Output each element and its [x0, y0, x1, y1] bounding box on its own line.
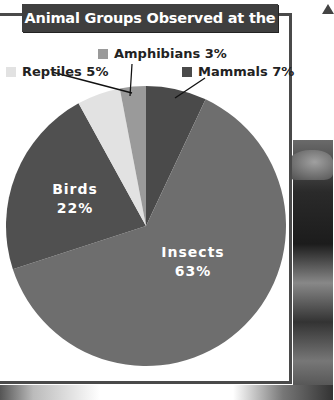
label-reptiles: Reptiles 5% [22, 64, 108, 79]
label-amphibians: Amphibians 3% [114, 46, 227, 61]
insects-pct: 63% [155, 262, 231, 281]
legend-amphibians: Amphibians 3% [98, 46, 227, 61]
swatch-mammals [182, 67, 192, 77]
swatch-reptiles [6, 67, 16, 77]
insects-name: Insects [155, 243, 231, 262]
slice-label-insects: Insects 63% [155, 243, 231, 281]
swatch-amphibians [98, 49, 108, 59]
slice-label-birds: Birds 22% [40, 180, 110, 218]
legend-mammals: Mammals 7% [182, 64, 294, 79]
label-mammals: Mammals 7% [198, 64, 294, 79]
birds-pct: 22% [40, 199, 110, 218]
birds-name: Birds [40, 180, 110, 199]
legend-reptiles: Reptiles 5% [6, 64, 108, 79]
